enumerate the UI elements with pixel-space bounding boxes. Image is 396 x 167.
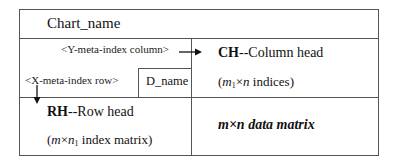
outer-border-bottom <box>19 155 379 156</box>
dname-box-top <box>138 68 192 69</box>
row-head-abbr: RH <box>47 104 68 119</box>
column-head-title: CH--Column head <box>218 45 323 61</box>
column-head-detail: (m1×n indices) <box>218 74 294 90</box>
times: × <box>61 132 68 147</box>
row-head-label: --Row head <box>68 104 134 119</box>
data-matrix-label: m×n data matrix <box>218 117 315 133</box>
row-head-detail: (m×n1 index matrix) <box>47 132 152 148</box>
dname-box-left <box>138 68 139 98</box>
var-m: m <box>222 74 231 89</box>
d-name-label: D_name <box>146 74 188 89</box>
column-head-abbr: CH <box>218 45 239 60</box>
chart-name: Chart_name <box>47 15 120 32</box>
arrow-right-icon <box>179 48 203 56</box>
detail-rest: index matrix) <box>79 132 153 147</box>
y-meta-index-label: <Y-meta-index column> <box>61 43 169 55</box>
outer-border-left <box>19 9 20 156</box>
outer-border-top <box>19 9 379 10</box>
arrow-down-icon <box>33 85 41 105</box>
row-head-title: RH--Row head <box>47 104 134 120</box>
header-separator <box>19 97 379 98</box>
var-m: m <box>51 132 60 147</box>
title-separator <box>19 38 379 39</box>
column-head-label: --Column head <box>239 45 323 60</box>
detail-rest: indices) <box>250 74 294 89</box>
outer-border-right <box>378 9 379 156</box>
times: × <box>236 74 243 89</box>
